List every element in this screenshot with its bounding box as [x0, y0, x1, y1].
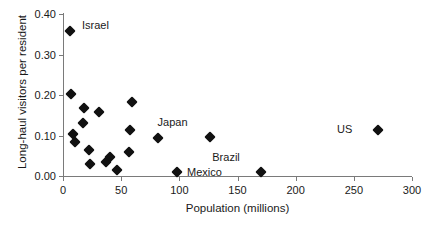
- data-point: [204, 131, 215, 142]
- y-tick-mark: [59, 95, 63, 96]
- y-tick-mark: [59, 136, 63, 137]
- data-point: [124, 146, 135, 157]
- x-tick-mark: [179, 177, 180, 181]
- data-point: [373, 125, 384, 136]
- data-point: [84, 159, 95, 170]
- x-tick-label: 100: [159, 184, 199, 196]
- x-tick-label: 50: [101, 184, 141, 196]
- x-tick-label: 250: [334, 184, 374, 196]
- data-point-label: Mexico: [187, 166, 222, 178]
- data-point: [78, 103, 89, 114]
- x-tick-mark: [296, 177, 297, 181]
- data-point: [93, 107, 104, 118]
- data-point: [126, 96, 137, 107]
- data-point-label: US: [337, 123, 352, 135]
- x-tick-label: 200: [276, 184, 316, 196]
- data-point-label: Brazil: [212, 151, 240, 163]
- data-point: [65, 88, 76, 99]
- data-point: [83, 145, 94, 156]
- data-point-label: Israel: [82, 19, 109, 31]
- scatter-chart: 050100150200250300 0.000.100.200.300.40 …: [0, 0, 428, 236]
- data-point: [111, 165, 122, 176]
- x-tick-mark: [121, 177, 122, 181]
- data-point: [125, 124, 136, 135]
- x-tick-label: 150: [218, 184, 258, 196]
- data-point-label: Japan: [158, 116, 188, 128]
- x-tick-label: 300: [392, 184, 428, 196]
- data-point: [153, 133, 164, 144]
- x-tick-mark: [354, 177, 355, 181]
- y-tick-mark: [59, 55, 63, 56]
- x-tick-mark: [63, 177, 64, 181]
- y-axis-title: Long-haul visitors per resident: [16, 2, 28, 182]
- x-tick-label: 0: [43, 184, 83, 196]
- x-axis-title: Population (millions): [63, 202, 412, 214]
- y-axis-line: [63, 13, 64, 177]
- x-tick-mark: [412, 177, 413, 181]
- y-tick-mark: [59, 176, 63, 177]
- data-point: [77, 117, 88, 128]
- y-tick-mark: [59, 14, 63, 15]
- data-point: [64, 25, 75, 36]
- x-tick-mark: [238, 177, 239, 181]
